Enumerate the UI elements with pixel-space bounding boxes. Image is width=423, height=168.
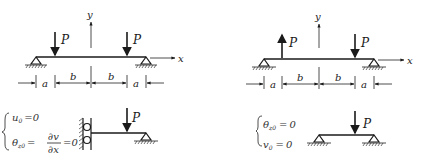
dimension-label: b [297, 72, 303, 83]
dimension-label: a [361, 79, 367, 90]
x-axis-label: x [407, 55, 413, 66]
load-label: P [360, 36, 370, 50]
right-full-beam: y x P P a b [246, 11, 413, 90]
load-label: P [60, 33, 70, 47]
load-label: P [132, 33, 142, 47]
dimension-label: b [108, 71, 114, 82]
pin-support-icon [135, 57, 157, 68]
roller-clamp-support-icon [79, 118, 91, 150]
derivative-numerator: ∂v [48, 131, 59, 142]
dimension-label: b [335, 72, 341, 83]
pin-support-icon [25, 57, 47, 68]
condition-theta: θz0=0 [263, 119, 296, 131]
pin-support-icon [362, 135, 386, 146]
y-axis-label: y [86, 9, 93, 20]
condition-rhs: =0 [63, 137, 78, 148]
y-axis-label: y [314, 11, 321, 22]
left-half-model: u0=0 θz0= ∂v ∂x =0 P [2, 108, 158, 155]
beam-symmetry-diagram: y x P P [0, 0, 423, 168]
brace [256, 116, 262, 146]
load-label: P [362, 117, 372, 131]
condition-theta: θz0= [12, 137, 35, 149]
dimension-line [246, 67, 392, 89]
x-axis-label: x [178, 53, 184, 64]
pin-support-icon [134, 133, 158, 144]
pin-support-icon [362, 59, 386, 70]
condition-u0: u0=0 [12, 112, 40, 124]
right-half-model: θz0=0 v0=0 P [256, 111, 386, 151]
condition-v0: v0=0 [263, 139, 293, 151]
brace [2, 113, 9, 150]
left-full-beam: y x P P [18, 9, 184, 89]
dimension-label: a [270, 79, 276, 90]
pin-support-icon [252, 59, 276, 70]
derivative-denominator: ∂x [48, 144, 59, 155]
load-label: P [131, 111, 141, 125]
dimension-label: a [42, 78, 48, 89]
load-label: P [288, 36, 298, 50]
dimension-label: a [133, 78, 139, 89]
dimension-line [18, 66, 164, 88]
dimension-label: b [70, 71, 76, 82]
pin-support-icon [307, 135, 331, 146]
